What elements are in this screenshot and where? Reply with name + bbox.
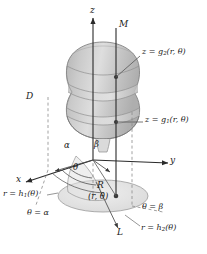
bottom-surface-label: z = g1(r, θ) xyxy=(145,116,189,125)
solid-region-D xyxy=(66,42,139,152)
top-surface-equals: z = g xyxy=(142,47,163,56)
bottom-surface-args: (r, θ) xyxy=(170,115,189,124)
r-outer-equals: r = h xyxy=(141,223,162,232)
top-surface-label: z = g2(r, θ) xyxy=(142,48,186,57)
leader-r-h2 xyxy=(125,215,140,226)
x-axis-label: x xyxy=(16,175,21,184)
ray-theta-beta xyxy=(93,160,110,172)
theta-angle-label: θ xyxy=(73,163,78,172)
alpha-angle-label: α xyxy=(64,141,70,150)
r-inner-args: (θ) xyxy=(27,189,38,198)
y-axis xyxy=(93,160,168,163)
r-outer-boundary-label: r = h2(θ) xyxy=(141,224,176,233)
y-axis-label: y xyxy=(170,156,175,165)
L-label: L xyxy=(117,228,123,237)
r-inner-boundary-label: r = h1(θ) xyxy=(3,190,38,199)
cylindrical-coordinates-figure: z y x M D L z = g2(r, θ) z = g1(r, θ) α … xyxy=(0,0,207,254)
theta-equals-beta-label: θ = β xyxy=(142,203,163,211)
M-label: M xyxy=(119,20,128,29)
r-outer-args: (θ) xyxy=(165,223,176,232)
bottom-surface-equals: z = g xyxy=(145,115,166,124)
theta-equals-alpha-label: θ = α xyxy=(27,209,49,217)
region-R-label: R xyxy=(97,181,104,190)
r-inner-equals: r = h xyxy=(3,189,24,198)
beta-angle-label: β xyxy=(94,140,99,149)
D-label: D xyxy=(26,92,33,101)
point-r-theta-label: (r, θ) xyxy=(88,192,108,201)
leader-r-h1 xyxy=(47,193,58,195)
z-axis-label: z xyxy=(90,6,95,15)
top-surface-args: (r, θ) xyxy=(167,47,186,56)
